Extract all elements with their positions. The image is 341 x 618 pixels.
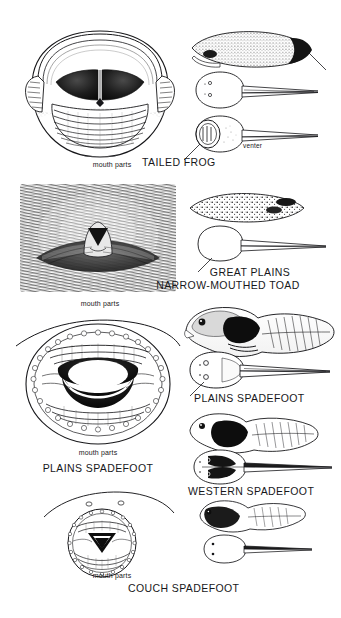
plains-spadefoot-right-name-label: PLAINS SPADEFOOT bbox=[194, 392, 305, 404]
couch-spadefoot-tadpole-views bbox=[196, 495, 336, 570]
lateral-view bbox=[190, 194, 304, 222]
tailed-frog-mouthparts-caption: mouth parts bbox=[93, 161, 132, 168]
lateral-view bbox=[185, 307, 334, 356]
tailed-frog-venter-annotation: venter bbox=[243, 142, 262, 149]
narrow-mouthed-toad-tadpole-views bbox=[186, 186, 336, 266]
plains-spadefoot-name-label: PLAINS SPADEFOOT bbox=[43, 462, 154, 474]
dorsal-view bbox=[196, 72, 318, 108]
tailed-frog-mouthparts-figure bbox=[18, 24, 183, 164]
couch-spadefoot-mouthparts-figure bbox=[42, 487, 182, 582]
plains-spadefoot-tadpole-views bbox=[182, 300, 338, 395]
narrow-mouthed-toad-name-label-line2: NARROW-MOUTHED TOAD bbox=[156, 279, 300, 291]
couch-spadefoot-name-label: COUCH SPADEFOOT bbox=[128, 582, 239, 594]
dorsal-view bbox=[190, 352, 330, 396]
lateral-view bbox=[192, 32, 326, 70]
narrow-mouthed-toad-mouthparts-caption: mouth parts bbox=[81, 300, 120, 307]
lateral-view bbox=[190, 414, 318, 453]
tailed-frog-name-label: TAILED FROG bbox=[142, 156, 216, 168]
western-spadefoot-tadpole-views bbox=[186, 408, 338, 488]
narrow-mouthed-toad-name-label-line1: GREAT PLAINS bbox=[210, 266, 290, 278]
dorsal-view bbox=[194, 450, 332, 484]
lateral-view bbox=[200, 501, 305, 532]
ventral-view bbox=[184, 116, 318, 160]
plains-spadefoot-mouthparts-figure bbox=[12, 312, 184, 452]
dorsal-view bbox=[204, 535, 312, 563]
illustration-plate: mouth parts bbox=[0, 0, 341, 618]
couch-spadefoot-mouthparts-caption: mouth parts bbox=[93, 572, 132, 579]
tailed-frog-tadpole-views bbox=[186, 26, 336, 156]
plains-spadefoot-mouthparts-caption: mouth parts bbox=[79, 449, 118, 456]
